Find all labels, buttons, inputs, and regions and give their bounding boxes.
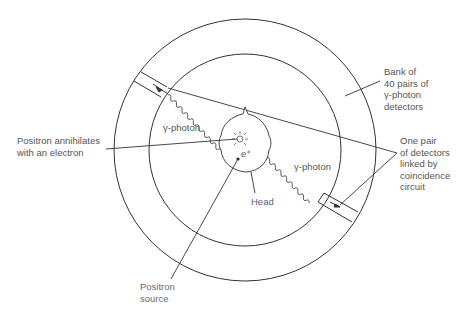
annihilates-pointer: [106, 139, 237, 149]
coincidence-link-bottom: [340, 153, 397, 205]
label-positron-annihilates: Positron annihilates with an electron: [17, 135, 100, 158]
label-positron-source: Positron source: [140, 281, 175, 304]
label-gamma-photon-right: γ-photon: [294, 161, 331, 173]
detector-lower-right: [318, 193, 358, 222]
label-head: Head: [251, 196, 274, 208]
label-bank-of-detectors: Bank of 40 pairs of γ-photon detectors: [384, 66, 428, 112]
label-positron-symbol: e⁺: [241, 148, 251, 160]
label-one-pair-of-detectors: One pair of detectors linked by coincide…: [400, 135, 450, 193]
coincidence-link-top: [168, 88, 397, 153]
detector-upper-left: [134, 72, 168, 97]
source-pointer: [171, 159, 238, 279]
bank-pointer: [345, 81, 380, 96]
label-gamma-photon-left: γ-photon: [163, 122, 200, 134]
head-pointer: [251, 172, 255, 193]
